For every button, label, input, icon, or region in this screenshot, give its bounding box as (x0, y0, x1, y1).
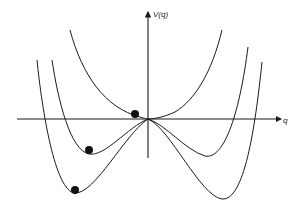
potential-diagram: V(q) q (0, 0, 299, 207)
y-axis-label: V(q) (153, 10, 168, 19)
ball-at-origin (131, 110, 139, 118)
double-well-potential-shallow-curve (52, 47, 248, 156)
x-axis-label: q (283, 116, 288, 125)
single-well-potential-curve (70, 30, 222, 119)
ball-in-shallow-well (85, 146, 93, 154)
double-well-potential-deep-curve (37, 60, 262, 199)
ball-in-deep-well (71, 186, 79, 194)
